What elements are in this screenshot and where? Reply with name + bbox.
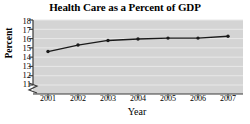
data-point-2001 [46,50,49,53]
x-tick-label-2005: 2005 [152,94,184,103]
data-point-2004 [136,37,139,40]
data-point-2005 [166,36,169,39]
chart-container: Health Care as a Percent of GDP Percent … [0,0,250,124]
x-tick-label-2006: 2006 [182,94,214,103]
data-point-2002 [76,43,79,46]
x-axis-title: Year [30,106,244,117]
data-point-2007 [226,35,229,38]
x-tick-label-2004: 2004 [122,94,154,103]
x-tick-label-2007: 2007 [212,94,244,103]
x-tick-label-2003: 2003 [92,94,124,103]
x-tick-label-2002: 2002 [62,94,94,103]
data-point-2003 [106,39,109,42]
x-tick-label-2001: 2001 [32,94,64,103]
data-point-2006 [196,36,199,39]
